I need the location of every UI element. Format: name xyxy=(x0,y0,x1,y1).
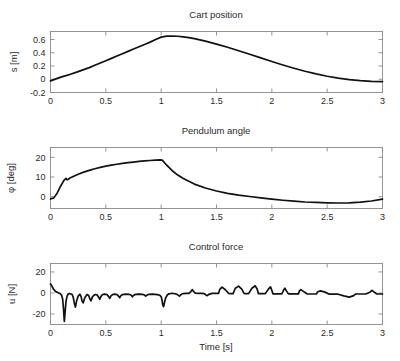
x-tick-label: 1.5 xyxy=(210,96,223,106)
subplot-title-pendulum-angle: Pendulum angle xyxy=(182,125,251,136)
x-ticks-cart-position: 00.511.522.53 xyxy=(48,32,385,106)
x-tick-label: 1 xyxy=(159,212,164,222)
subplot-pendulum-angle: Pendulum angle φ [deg] 01020 00.511.522.… xyxy=(5,125,385,222)
x-tick-label: 1.5 xyxy=(210,212,223,222)
y-tick-label: 20 xyxy=(35,267,45,277)
x-tick-label: 2 xyxy=(269,328,274,338)
x-tick-label: 0 xyxy=(48,328,53,338)
x-tick-label: 1 xyxy=(159,328,164,338)
x-tick-label: 2 xyxy=(269,96,274,106)
y-tick-label: 20 xyxy=(35,153,45,163)
axis-frame-pendulum-angle xyxy=(51,148,383,209)
subplot-cart-position: Cart position s [m] -0.200.20.40.6 00.51… xyxy=(8,9,385,106)
subplot-title-control-force: Control force xyxy=(189,241,243,252)
y-tick-label: -20 xyxy=(32,309,45,319)
figure-canvas: Cart position s [m] -0.200.20.40.6 00.51… xyxy=(0,0,400,361)
y-ticks-pendulum-angle: 01020 xyxy=(35,153,382,202)
x-axis-label-time: Time [s] xyxy=(199,341,232,352)
x-ticks-control-force: 00.511.522.53 xyxy=(48,264,385,338)
x-tick-label: 1.5 xyxy=(210,328,223,338)
x-tick-label: 1 xyxy=(159,96,164,106)
y-tick-label: 10 xyxy=(35,172,45,182)
x-tick-label: 2.5 xyxy=(321,96,334,106)
y-tick-label: 0 xyxy=(40,74,45,84)
y-ticks-cart-position: -0.200.20.40.6 xyxy=(30,35,383,98)
subplot-control-force: Control force u [N] Time [s] -20020 00.5… xyxy=(6,241,385,352)
y-tick-label: 0.2 xyxy=(33,61,46,71)
series-line-control-force xyxy=(51,284,383,321)
y-tick-label: 0.4 xyxy=(33,48,46,58)
x-tick-label: 2.5 xyxy=(321,212,334,222)
plot-area-control-force: -20020 00.511.522.53 xyxy=(32,264,385,338)
x-tick-label: 3 xyxy=(380,212,385,222)
y-axis-label-control-force: u [N] xyxy=(6,284,17,304)
series-line-cart-position xyxy=(51,36,383,82)
plot-area-pendulum-angle: 01020 00.511.522.53 xyxy=(35,148,385,222)
y-tick-label: 0 xyxy=(40,192,45,202)
y-ticks-control-force: -20020 xyxy=(32,267,382,319)
x-tick-label: 3 xyxy=(380,96,385,106)
x-tick-label: 2.5 xyxy=(321,328,334,338)
y-tick-label: 0.6 xyxy=(33,35,46,45)
subplot-title-cart-position: Cart position xyxy=(189,9,242,20)
x-tick-label: 0.5 xyxy=(100,212,113,222)
x-tick-label: 2 xyxy=(269,212,274,222)
x-tick-label: 0.5 xyxy=(100,96,113,106)
axis-frame-cart-position xyxy=(51,32,383,93)
x-ticks-pendulum-angle: 00.511.522.53 xyxy=(48,148,385,222)
x-tick-label: 0 xyxy=(48,212,53,222)
y-tick-label: -0.2 xyxy=(30,88,46,98)
x-tick-label: 0.5 xyxy=(100,328,113,338)
series-line-pendulum-angle xyxy=(51,160,383,203)
plot-area-cart-position: -0.200.20.40.6 00.511.522.53 xyxy=(30,32,385,106)
y-tick-label: 0 xyxy=(40,288,45,298)
x-tick-label: 3 xyxy=(380,328,385,338)
y-axis-label-cart-position: s [m] xyxy=(8,52,19,73)
x-tick-label: 0 xyxy=(48,96,53,106)
y-axis-label-pendulum-angle: φ [deg] xyxy=(5,163,16,193)
